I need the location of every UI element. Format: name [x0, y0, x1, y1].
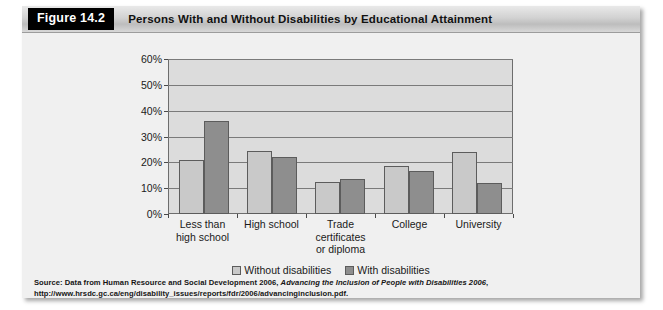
chart-body: 0%10%20%30%40%50%60% Less thanhigh schoo…: [22, 32, 640, 272]
bar-with-disabilities: [340, 179, 365, 214]
bar-without-disabilities: [452, 152, 477, 214]
x-axis-category-label: High school: [238, 218, 306, 256]
x-axis-category-label: University: [445, 218, 513, 256]
bar-group: [315, 59, 365, 214]
y-axis-tick-label: 20%: [141, 156, 162, 168]
bar-group: [179, 59, 229, 214]
figure-number-badge: Figure 14.2: [28, 8, 114, 30]
x-axis-tick-mark: [513, 214, 514, 218]
legend-swatch-icon-without: [232, 266, 241, 275]
plot-wrap: 0%10%20%30%40%50%60%: [168, 59, 513, 214]
x-axis-category-label-line: High school: [238, 218, 306, 231]
bar-with-disabilities: [409, 171, 434, 214]
x-axis-category-label-line: Less than: [169, 218, 237, 231]
source-note: Source: Data from Human Resource and Soc…: [34, 278, 634, 299]
x-axis-category-label-line: College: [376, 218, 444, 231]
bar-with-disabilities: [204, 121, 229, 214]
figure-panel: Figure 14.2 Persons With and Without Dis…: [22, 6, 640, 298]
legend-label-without: Without disabilities: [244, 264, 331, 276]
y-axis-tick-label: 10%: [141, 182, 162, 194]
x-axis-category-label-line: University: [445, 218, 513, 231]
bar-group: [384, 59, 434, 214]
bar-without-disabilities: [247, 151, 272, 214]
x-axis-category-label-line: certificates: [307, 231, 375, 244]
y-axis-tick-label: 30%: [141, 131, 162, 143]
figure-header: Figure 14.2 Persons With and Without Dis…: [22, 6, 640, 33]
y-axis-tick-label: 40%: [141, 105, 162, 117]
bar-group: [247, 59, 297, 214]
bars-layer: [168, 59, 513, 214]
x-axis-category-label: Tradecertificatesor diploma: [307, 218, 375, 256]
bar-with-disabilities: [477, 183, 502, 214]
y-axis-tick-label: 50%: [141, 79, 162, 91]
x-axis-category-label-line: high school: [169, 231, 237, 244]
source-italic-title: Advancing the Inclusion of People with D…: [281, 278, 486, 287]
x-axis-category-label: Less thanhigh school: [169, 218, 237, 256]
legend-label-with: With disabilities: [357, 264, 429, 276]
chart-legend: Without disabilities With disabilities: [22, 264, 640, 276]
source-prefix: Source: Data from Human Resource and Soc…: [34, 278, 281, 287]
bar-without-disabilities: [384, 166, 409, 214]
x-axis-labels: Less thanhigh schoolHigh schoolTradecert…: [168, 218, 513, 256]
bar-group: [452, 59, 502, 214]
x-axis-category-label-line: or diploma: [307, 243, 375, 256]
x-axis-category-label-line: Trade: [307, 218, 375, 231]
y-axis-tick-label: 0%: [147, 208, 162, 220]
bar-without-disabilities: [179, 160, 204, 214]
x-axis-category-label: College: [376, 218, 444, 256]
bar-without-disabilities: [315, 182, 340, 214]
y-axis-tick-label: 60%: [141, 53, 162, 65]
legend-item-with-disabilities: With disabilities: [345, 264, 429, 276]
bar-with-disabilities: [272, 157, 297, 214]
legend-item-without-disabilities: Without disabilities: [232, 264, 331, 276]
figure-title: Persons With and Without Disabilities by…: [128, 13, 492, 25]
legend-swatch-icon-with: [345, 266, 354, 275]
